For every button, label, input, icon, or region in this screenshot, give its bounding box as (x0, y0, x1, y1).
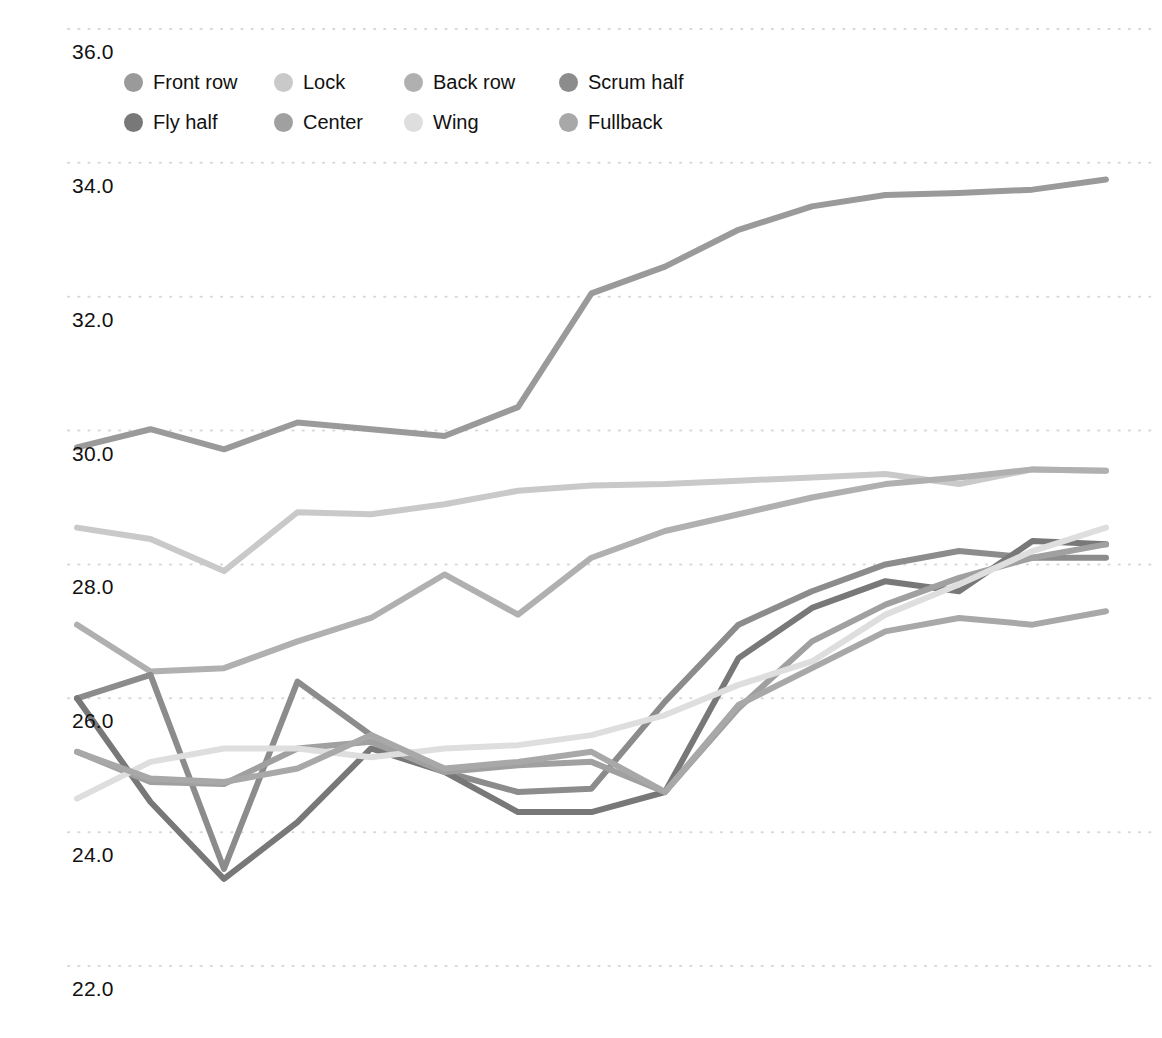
y-tick-label: 22.0 (72, 977, 114, 1001)
legend-swatch-icon (274, 73, 293, 92)
legend-item-back-row[interactable]: Back row (404, 71, 559, 94)
y-tick-label: 28.0 (72, 575, 114, 599)
legend-label: Lock (303, 71, 345, 94)
legend-label: Front row (153, 71, 237, 94)
series-line-scrum-half (77, 551, 1106, 869)
legend-item-fly-half[interactable]: Fly half (124, 111, 274, 134)
legend-swatch-icon (124, 73, 143, 92)
legend-swatch-icon (274, 113, 293, 132)
series-line-fly-half (77, 541, 1106, 879)
legend-item-scrum-half[interactable]: Scrum half (559, 71, 709, 94)
legend-swatch-icon (404, 113, 423, 132)
legend-item-lock[interactable]: Lock (274, 71, 404, 94)
y-tick-label: 24.0 (72, 843, 114, 867)
chart-svg (0, 0, 1162, 1038)
y-tick-label: 30.0 (72, 442, 114, 466)
grid-lines (68, 29, 1156, 966)
y-tick-label: 34.0 (72, 174, 114, 198)
legend-item-center[interactable]: Center (274, 111, 404, 134)
series-lines (77, 180, 1106, 879)
legend-item-front-row[interactable]: Front row (124, 71, 274, 94)
legend-swatch-icon (124, 113, 143, 132)
y-tick-label: 36.0 (72, 40, 114, 64)
legend-label: Fullback (588, 111, 662, 134)
legend-item-wing[interactable]: Wing (404, 111, 559, 134)
series-line-back-row (77, 469, 1106, 671)
chart-plot-area (0, 0, 1162, 1038)
legend-label: Wing (433, 111, 479, 134)
legend-label: Fly half (153, 111, 217, 134)
series-line-front-row (77, 180, 1106, 450)
chart-legend: Front rowLockBack rowScrum halfFly halfC… (124, 62, 744, 142)
legend-swatch-icon (404, 73, 423, 92)
legend-label: Scrum half (588, 71, 684, 94)
legend-swatch-icon (559, 73, 578, 92)
legend-item-fullback[interactable]: Fullback (559, 111, 709, 134)
legend-label: Back row (433, 71, 515, 94)
y-tick-label: 26.0 (72, 709, 114, 733)
legend-label: Center (303, 111, 363, 134)
y-tick-label: 32.0 (72, 308, 114, 332)
legend-swatch-icon (559, 113, 578, 132)
